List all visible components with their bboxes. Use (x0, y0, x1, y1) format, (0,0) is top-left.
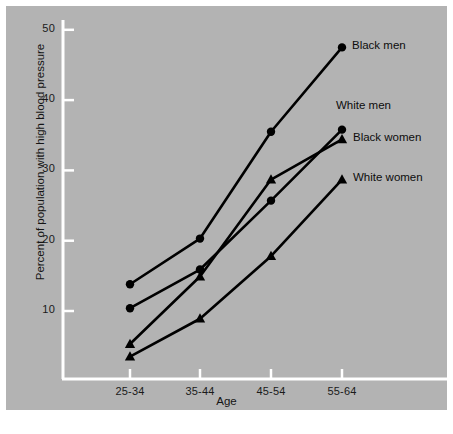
series-line (130, 47, 342, 284)
data-point-circle-marker (338, 43, 346, 51)
series-black-men (126, 43, 346, 288)
data-point-triangle-marker (337, 134, 347, 143)
series-label-white-men: White men (336, 99, 391, 111)
data-point-circle-marker (126, 304, 134, 312)
y-tick-label: 10 (21, 303, 55, 315)
x-axis-title: Age (6, 395, 447, 407)
series-label-black-men: Black men (352, 39, 406, 51)
data-point-circle-marker (267, 196, 275, 204)
data-point-circle-marker (338, 125, 346, 133)
series-white-men (126, 125, 346, 312)
series-line (130, 139, 342, 344)
chart-series-group (125, 43, 347, 360)
chart-tick-marks (63, 30, 342, 379)
series-label-black-women: Black women (353, 131, 421, 143)
y-tick-label: 50 (21, 22, 55, 34)
chart-plot-area (6, 6, 447, 410)
data-point-circle-marker (267, 128, 275, 136)
data-point-circle-marker (196, 234, 204, 242)
y-axis-title: Percent of population with high blood pr… (34, 42, 46, 282)
series-label-white-women: White women (353, 171, 423, 183)
chart-figure: 1020304050 25-3435-4445-5455-64 Black me… (6, 6, 447, 410)
series-line (130, 180, 342, 357)
chart-axes (62, 20, 447, 379)
data-point-circle-marker (126, 280, 134, 288)
series-black-women (125, 134, 347, 348)
data-point-triangle-marker (337, 174, 347, 183)
